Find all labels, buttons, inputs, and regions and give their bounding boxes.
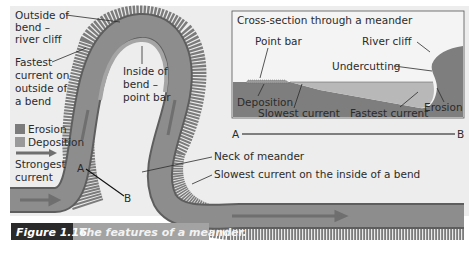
label-point-bar: Point bar <box>255 35 303 47</box>
legend-strongest-current: Strongest <box>15 158 66 170</box>
label-river-cliff: River cliff <box>362 35 412 47</box>
deposition-swatch <box>15 137 25 147</box>
label-slowest-current: Slowest current <box>258 107 340 119</box>
label-inside-bend: point bar <box>123 91 171 103</box>
label-fastest-current: Fastest current <box>350 107 428 119</box>
erosion-swatch <box>15 124 25 134</box>
label-slowest-inside: Slowest current on the inside of a bend <box>214 168 420 180</box>
label-outside-bend: Outside of <box>15 9 69 21</box>
label-fastest-current: outside of <box>15 82 67 94</box>
label-outside-bend: bend – <box>15 21 50 33</box>
legend-strongest-current: current <box>15 171 53 183</box>
label-erosion: Erosion <box>424 101 463 113</box>
caption-text: The features of a meander. <box>79 226 247 239</box>
label-undercutting: Undercutting <box>332 60 400 72</box>
axis-start-label: A <box>232 128 240 140</box>
legend-erosion: Erosion <box>28 123 67 135</box>
cross-section-inset: Cross-section through a meander Point ba… <box>232 11 464 119</box>
label-neck: Neck of meander <box>214 150 305 162</box>
cross-section-title: Cross-section through a meander <box>237 14 413 26</box>
axis-end-label: B <box>457 128 464 140</box>
label-fastest-current: a bend <box>15 95 51 107</box>
label-fastest-current: Fastest <box>15 56 52 68</box>
label-outside-bend: river cliff <box>15 33 62 45</box>
label-inside-bend: Inside of <box>123 65 168 77</box>
label-point-b: B <box>124 192 131 204</box>
label-point-a: A <box>77 162 85 174</box>
legend-deposition: Deposition <box>28 136 84 148</box>
point-bar-deposits <box>246 80 290 83</box>
meander-figure: Outside of bend – river cliff Fastest cu… <box>0 0 474 253</box>
caption-number: Figure 1.16 <box>16 226 87 239</box>
label-inside-bend: bend – <box>123 78 158 90</box>
label-fastest-current: current on <box>15 69 69 81</box>
